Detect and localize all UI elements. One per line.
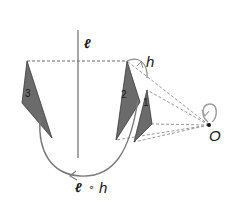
composition-right-label: h bbox=[99, 179, 107, 196]
triangle-2 bbox=[116, 61, 140, 140]
line-label: ℓ bbox=[84, 36, 91, 51]
rotation-loop bbox=[203, 104, 216, 122]
triangle-1-label: 1 bbox=[143, 97, 149, 108]
diagram-canvas: ℓ h O 3 2 1 ℓ ∘ h bbox=[0, 0, 241, 222]
composition-operator: ∘ bbox=[88, 181, 95, 193]
center-label: O bbox=[209, 127, 221, 144]
triangle-3-label: 3 bbox=[25, 88, 31, 99]
triangle-3 bbox=[22, 61, 52, 138]
rotation-label: h bbox=[146, 53, 154, 70]
composition-left-label: ℓ bbox=[75, 180, 82, 195]
triangle-2-label: 2 bbox=[121, 89, 127, 100]
